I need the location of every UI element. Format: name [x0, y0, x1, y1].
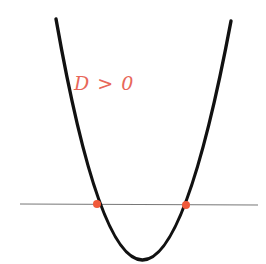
parabola-curve — [56, 19, 231, 260]
intersection-point-left — [93, 200, 101, 208]
horizontal-axis-line — [20, 204, 258, 205]
intersection-point-right — [182, 201, 190, 209]
diagram-canvas — [0, 0, 266, 264]
discriminant-label: D > 0 — [74, 72, 134, 94]
